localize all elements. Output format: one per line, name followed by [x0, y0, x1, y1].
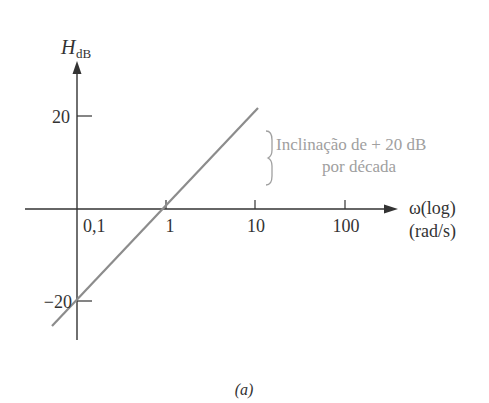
x-tick-label-0.1: 0,1	[83, 216, 106, 236]
x-axis-arrow-icon	[384, 205, 398, 214]
x-tick-label-100: 100	[333, 216, 360, 236]
bode-plot: H dB 20 −20 0,1 1 10 100 ω(log) (rad/s) …	[0, 0, 489, 403]
annotation-brace-icon	[266, 131, 272, 185]
y-axis-arrow-icon	[73, 61, 82, 74]
annotation-line1: Inclinação de + 20 dB	[276, 135, 426, 154]
x-tick-label-1: 1	[166, 216, 175, 236]
y-axis-label: H	[60, 36, 77, 58]
y-tick-label-neg20: −20	[44, 292, 72, 312]
x-axis-label: ω(log)	[409, 198, 456, 219]
x-axis-unit: (rad/s)	[409, 221, 456, 242]
annotation-line2: por década	[322, 157, 397, 176]
figure-caption: (a)	[235, 381, 254, 399]
y-tick-label-20: 20	[52, 107, 70, 127]
x-tick-label-10: 10	[247, 216, 265, 236]
y-axis-label-sub: dB	[76, 46, 92, 61]
